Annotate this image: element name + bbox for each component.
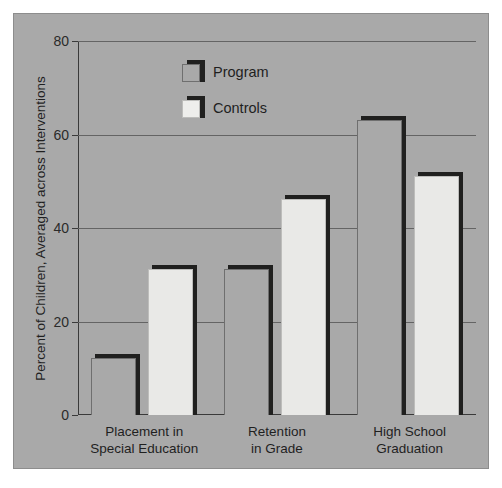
x-axis-label-2: Retentionin Grade: [248, 424, 306, 458]
y-tick-mark-0: [72, 415, 78, 416]
x-axis-label-3: High SchoolGraduation: [373, 424, 446, 458]
y-tick-mark-60: [72, 135, 78, 136]
bar-face: [148, 269, 193, 415]
bar-program-group-3: [357, 116, 406, 415]
legend-label-program: Program: [213, 64, 269, 80]
chart-legend: Program Controls: [182, 60, 269, 119]
y-tick-label-40: 40: [53, 220, 69, 236]
y-tick-mark-80: [72, 41, 78, 42]
bar-controls-group-1: [148, 265, 197, 415]
bar-face: [91, 358, 136, 415]
legend-swatch-program-icon: [182, 60, 205, 83]
bar-face: [357, 120, 402, 415]
x-axis-label-line: in Grade: [248, 441, 306, 458]
y-tick-label-80: 80: [53, 33, 69, 49]
y-tick-mark-40: [72, 228, 78, 229]
legend-item-program: Program: [182, 60, 269, 83]
x-axis-label-line: Placement in: [90, 424, 198, 441]
x-axis-label-line: High School: [373, 424, 446, 441]
legend-swatch-controls-icon: [182, 96, 205, 119]
bar-face: [224, 269, 269, 415]
x-axis-label-line: Special Education: [90, 441, 198, 458]
bar-program-group-2: [224, 265, 273, 415]
x-axis-label-line: Retention: [248, 424, 306, 441]
y-tick-label-0: 0: [61, 407, 69, 423]
gridline-60: [78, 135, 476, 136]
bar-controls-group-2: [281, 195, 330, 415]
y-tick-label-20: 20: [53, 314, 69, 330]
bar-program-group-1: [91, 354, 140, 415]
x-axis-label-line: Graduation: [373, 441, 446, 458]
bar-face: [414, 176, 459, 415]
bar-face: [281, 199, 326, 415]
plot-area: 020406080 Placement inSpecial EducationR…: [78, 41, 476, 415]
y-tick-mark-20: [72, 322, 78, 323]
x-axis-label-1: Placement inSpecial Education: [90, 424, 198, 458]
bar-controls-group-3: [414, 172, 463, 415]
y-axis-title: Percent of Children, Averaged across Int…: [30, 41, 50, 415]
legend-label-controls: Controls: [213, 100, 267, 116]
y-tick-label-60: 60: [53, 127, 69, 143]
chart-figure-panel: Percent of Children, Averaged across Int…: [13, 13, 489, 469]
gridline-80: [78, 41, 476, 42]
y-axis-title-text: Percent of Children, Averaged across Int…: [33, 76, 48, 380]
legend-item-controls: Controls: [182, 96, 269, 119]
